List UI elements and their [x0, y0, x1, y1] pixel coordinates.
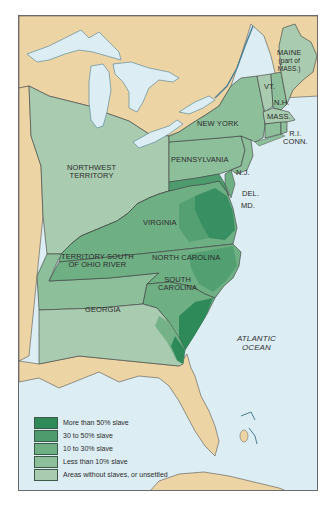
legend-item-30-to-50: 30 to 50% slave — [34, 429, 168, 442]
legend-swatch — [34, 417, 58, 429]
label-md: MD. — [241, 202, 255, 210]
label-virginia: VIRGINIA — [143, 219, 177, 227]
label-maine: MAINE (part of MASS.) — [277, 49, 301, 73]
map-frame: MAINE (part of MASS.) VT. N.H. MASS. R.I… — [18, 15, 318, 491]
legend-item-less-than-10: Less than 10% slave — [34, 455, 168, 468]
label-northwest-territory: NORTHWEST TERRITORY — [67, 164, 116, 180]
map-legend: More than 50% slave 30 to 50% slave 10 t… — [34, 416, 168, 481]
label-pennsylvania: PENNSYLVANIA — [171, 156, 229, 164]
legend-swatch — [34, 469, 58, 481]
label-south-carolina: SOUTH CAROLINA — [158, 276, 197, 292]
legend-item-more-than-50: More than 50% slave — [34, 416, 168, 429]
label-mass: MASS. — [267, 113, 291, 121]
label-ri: R.I. CONN. — [283, 130, 308, 146]
label-georgia: GEORGIA — [85, 306, 121, 314]
legend-swatch — [34, 430, 58, 442]
label-new-york: NEW YORK — [197, 120, 239, 128]
label-territory-south-of-ohio: TERRITORY SOUTH OF OHIO RIVER — [61, 253, 134, 269]
label-north-carolina: NORTH CAROLINA — [152, 254, 220, 262]
label-atlantic-ocean: ATLANTIC OCEAN — [237, 334, 276, 352]
label-nj: N.J. — [236, 169, 250, 177]
label-vt: VT. — [264, 83, 275, 91]
legend-item-10-to-30: 10 to 30% slave — [34, 442, 168, 455]
label-nh: N.H. — [274, 99, 289, 107]
legend-item-without-slaves: Areas without slaves, or unsettled — [34, 468, 168, 481]
cuba-land — [149, 472, 289, 491]
label-del: DEL. — [242, 190, 259, 198]
legend-swatch — [34, 443, 58, 455]
legend-swatch — [34, 456, 58, 468]
